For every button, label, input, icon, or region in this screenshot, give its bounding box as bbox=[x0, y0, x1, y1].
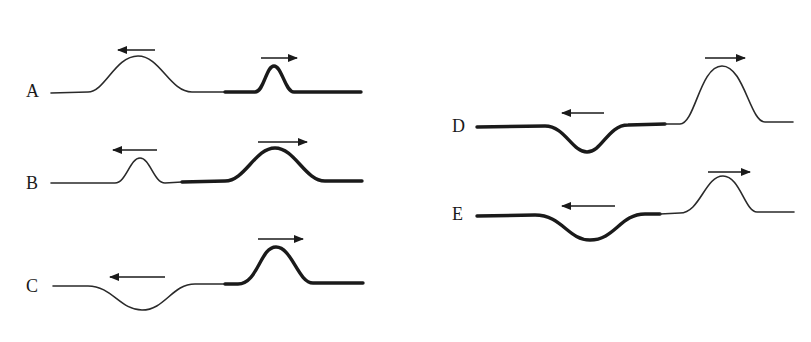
option-b: B bbox=[26, 142, 362, 193]
thick-string-e bbox=[477, 214, 660, 240]
option-e: E bbox=[452, 172, 794, 240]
thick-string-b bbox=[182, 148, 362, 182]
thick-string-d bbox=[477, 124, 665, 152]
thin-string-a bbox=[51, 56, 225, 93]
thin-string-d bbox=[665, 66, 793, 124]
option-d: D bbox=[452, 58, 793, 152]
option-label-e: E bbox=[452, 204, 463, 224]
option-label-c: C bbox=[26, 276, 38, 296]
thick-string-a bbox=[225, 66, 361, 92]
wave-pulse-diagram: A B C D E bbox=[0, 0, 811, 342]
thin-string-b bbox=[51, 158, 182, 183]
option-a: A bbox=[26, 50, 361, 101]
thick-string-c bbox=[225, 247, 363, 284]
thin-string-c bbox=[53, 284, 225, 310]
option-label-b: B bbox=[26, 173, 38, 193]
option-c: C bbox=[26, 239, 363, 310]
thin-string-e bbox=[660, 176, 794, 214]
option-label-a: A bbox=[26, 81, 39, 101]
option-label-d: D bbox=[452, 116, 465, 136]
